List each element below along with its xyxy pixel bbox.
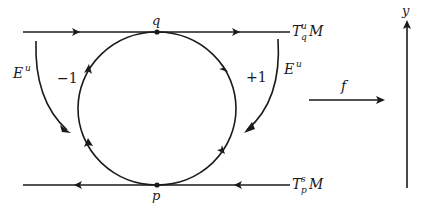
orbit-circle [78, 32, 236, 185]
point-p [154, 182, 159, 187]
map-f-arrow [309, 96, 385, 104]
left-unstable-bundle-arrow [36, 41, 71, 133]
y-axis-label: y [401, 3, 410, 18]
left-bundle-label: E [12, 65, 23, 81]
arrow-down-icon [219, 64, 228, 72]
svg-text:q: q [301, 32, 307, 42]
svg-text:u: u [301, 21, 307, 31]
left-bundle-sup: u [25, 63, 31, 73]
right-bundle-sup: u [296, 59, 302, 69]
y-axis [403, 20, 411, 188]
svg-text:M: M [308, 176, 324, 192]
right-unstable-bundle-arrow [244, 39, 278, 133]
map-f-label: f [340, 78, 349, 94]
diagram-canvas: q p −1 +1 E u E u T u q M T s p M f [0, 0, 421, 208]
right-bundle-label: E [283, 61, 294, 77]
circle-left-label: −1 [57, 70, 78, 86]
bottom-line-label: T s p M [292, 174, 324, 195]
svg-text:M: M [308, 23, 324, 39]
point-q [154, 29, 159, 34]
top-line-label: T u q M [292, 21, 324, 42]
arrow-down-right-icon [60, 125, 71, 133]
svg-text:p: p [301, 185, 307, 195]
point-p-label: p [152, 188, 161, 203]
svg-text:s: s [301, 174, 306, 184]
point-q-label: q [152, 13, 160, 28]
circle-right-label: +1 [246, 69, 267, 85]
